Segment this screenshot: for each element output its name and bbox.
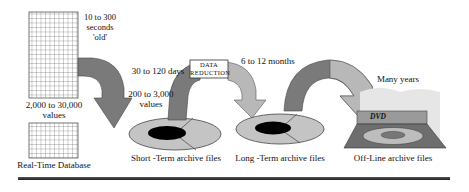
- realtime-title: Real-Time Database: [12, 160, 96, 170]
- bottom-divider: [18, 177, 450, 180]
- long-term-title: Long -Term archive files: [232, 153, 328, 163]
- short-term-title: Short -Term archive files: [130, 153, 222, 163]
- offline-duration: Many years: [372, 74, 424, 84]
- reduction-line-1: DATA: [190, 61, 228, 69]
- st-values-line-1: 200 to 3,000: [124, 89, 178, 99]
- age-line-2: seconds: [78, 22, 122, 32]
- st-values-line-2: values: [124, 99, 178, 109]
- long-term-duration: 6 to 12 months: [236, 56, 300, 66]
- short-term-duration: 30 to 120 days: [126, 66, 190, 76]
- dvd-label: DVD: [366, 112, 390, 122]
- short-term-disk: [129, 118, 221, 150]
- age-line-3: 'old': [78, 32, 122, 42]
- offline-title: Off-Line archive files: [350, 153, 436, 163]
- values-line-1: 2,000 to 30,000: [12, 100, 96, 110]
- realtime-grid-upper: [29, 12, 78, 98]
- data-reduction-label: DATA REDUCTION: [190, 61, 228, 77]
- realtime-values-label: 2,000 to 30,000 values: [12, 100, 96, 120]
- realtime-grid-lower: [29, 123, 78, 158]
- reduction-line-2: REDUCTION: [190, 69, 228, 77]
- short-term-values-label: 200 to 3,000 values: [124, 89, 178, 109]
- long-term-disk: [236, 114, 324, 144]
- age-line-1: 10 to 300: [78, 12, 122, 22]
- realtime-age-label: 10 to 300 seconds 'old': [78, 12, 122, 42]
- values-line-2: values: [12, 110, 96, 120]
- arrow-reduction-to-longterm: [225, 62, 266, 118]
